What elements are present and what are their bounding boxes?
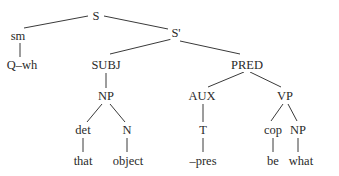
node-s: S (92, 9, 101, 23)
edge-s-sm (24, 16, 88, 28)
node-det: det (74, 123, 91, 137)
node-vp: VP (276, 89, 294, 103)
edge-pred-vp (250, 72, 281, 87)
leaf-be: be (266, 154, 280, 168)
node-aux: AUX (187, 89, 216, 103)
leaf-object: object (112, 154, 145, 168)
edge-np-n (110, 104, 125, 122)
node-cop: cop (263, 123, 283, 137)
node-pred: PRED (230, 58, 264, 72)
node-np-obj: NP (289, 123, 307, 137)
edge-vp-cop (271, 104, 283, 121)
node-subj: SUBJ (90, 58, 121, 72)
node-sm: sm (10, 29, 27, 43)
node-n: N (121, 123, 132, 137)
node-np-subj: NP (97, 89, 115, 103)
edge-np-det (87, 104, 102, 122)
leaf-pres: –pres (188, 154, 217, 168)
node-q-wh: Q–wh (6, 58, 39, 72)
edge-vp-np (288, 104, 297, 121)
edge-sprime-pred (180, 41, 240, 54)
edge-s-sprime (104, 16, 168, 29)
edge-pred-aux (208, 72, 244, 87)
leaf-that: that (73, 154, 94, 168)
edge-sprime-subj (110, 39, 172, 54)
node-s-prime: S' (170, 26, 181, 40)
leaf-what: what (288, 154, 314, 168)
node-t: T (198, 123, 208, 137)
